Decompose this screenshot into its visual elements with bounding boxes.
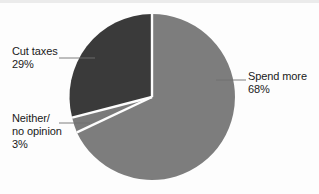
slice-label-cut-taxes: Cut taxes 29% [12, 45, 58, 71]
pie-chart: Cut taxes 29% Neither/ no opinion 3% Spe… [0, 0, 319, 194]
pie-chart-graphic [0, 0, 319, 194]
slice-label-neither-no-opinion: Neither/ no opinion 3% [12, 112, 62, 151]
slice-label-cut-taxes-value: 29% [12, 58, 58, 71]
slice-label-spend-more-name: Spend more [248, 70, 307, 83]
slice-label-cut-taxes-name: Cut taxes [12, 45, 58, 58]
slice-label-spend-more: Spend more 68% [248, 70, 307, 96]
slice-label-neither-line2: no opinion [12, 125, 62, 138]
slice-label-spend-more-value: 68% [248, 83, 307, 96]
slice-label-neither-line1: Neither/ [12, 112, 62, 125]
slice-label-neither-value: 3% [12, 138, 62, 151]
